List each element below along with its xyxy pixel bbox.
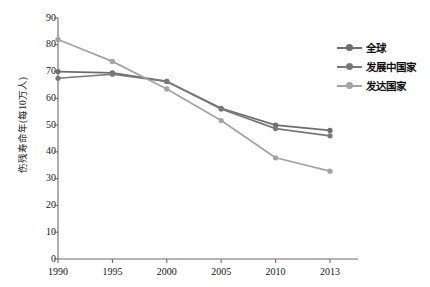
legend-marker-icon <box>337 61 362 72</box>
legend-item[interactable]: 全球 <box>337 38 430 57</box>
series-point <box>219 106 224 111</box>
x-axis-tick-label: 1990 <box>38 266 78 277</box>
chart-legend: 全球发展中国家发达国家 <box>337 38 430 95</box>
legend-label: 发达国家 <box>366 78 406 93</box>
series-point <box>55 69 60 74</box>
legend-marker-icon <box>337 42 362 53</box>
legend-dot-icon <box>346 63 353 70</box>
x-axis-tick-label: 2000 <box>147 266 187 277</box>
legend-label: 发展中国家 <box>366 59 416 74</box>
legend-item[interactable]: 发展中国家 <box>337 57 430 76</box>
x-axis-tick-label: 2010 <box>256 266 296 277</box>
legend-dot-icon <box>346 82 353 89</box>
series-point <box>327 169 332 174</box>
x-axis-tick-label: 2013 <box>310 266 350 277</box>
legend-marker-icon <box>337 80 362 91</box>
series-point <box>110 59 115 64</box>
series-point <box>273 155 278 160</box>
legend-label: 全球 <box>366 40 386 55</box>
series-line <box>58 72 330 131</box>
series-line <box>58 39 330 171</box>
series-point <box>327 133 332 138</box>
chart-container: 伤残寿命年(每10万人) 0102030405060708090 1990199… <box>0 0 430 287</box>
series-point <box>164 86 169 91</box>
legend-item[interactable]: 发达国家 <box>337 76 430 95</box>
series-point <box>273 126 278 131</box>
x-axis-tick-label: 1995 <box>92 266 132 277</box>
series-point <box>327 128 332 133</box>
series-point <box>55 37 60 42</box>
series-point <box>55 76 60 81</box>
series-point <box>219 118 224 123</box>
legend-dot-icon <box>346 44 353 51</box>
x-axis-tick-label: 2005 <box>201 266 241 277</box>
series-point <box>164 79 169 84</box>
series-point <box>110 72 115 77</box>
